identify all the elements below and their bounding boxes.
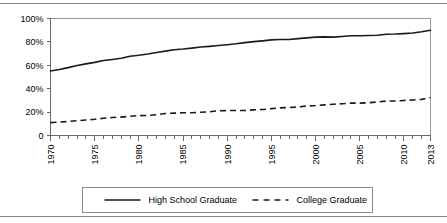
y-axis-tick-labels: 020%40%60%80%100% <box>20 14 43 141</box>
x-tick-label: 2013 <box>426 145 436 165</box>
legend-label: College Graduate <box>297 195 368 205</box>
figure-container: 020%40%60%80%100% 1970197519801985199019… <box>0 0 447 223</box>
x-tick-label: 2010 <box>399 145 409 165</box>
x-axis-ticks <box>51 136 431 141</box>
x-tick-label: 1985 <box>178 145 188 165</box>
x-tick-label: 1980 <box>134 145 144 165</box>
x-tick-label: 1975 <box>90 145 100 165</box>
y-tick-label: 100% <box>20 14 43 24</box>
x-tick-label: 1995 <box>267 145 277 165</box>
x-tick-label: 1970 <box>46 145 56 165</box>
y-tick-label: 0 <box>38 131 43 141</box>
y-tick-label: 20% <box>25 107 43 117</box>
y-tick-label: 40% <box>25 84 43 94</box>
chart-legend: High School GraduateCollege Graduate <box>83 188 373 213</box>
bottom-horizontal-rule <box>0 216 447 217</box>
y-axis-ticks <box>47 19 51 136</box>
x-tick-label: 1990 <box>223 145 233 165</box>
legend-label: High School Graduate <box>149 195 238 205</box>
x-tick-label: 2000 <box>311 145 321 165</box>
y-tick-label: 60% <box>25 61 43 71</box>
x-tick-label: 2005 <box>355 145 365 165</box>
series-line-1 <box>51 30 431 71</box>
series-line-2 <box>51 97 431 122</box>
data-series-group <box>51 30 431 122</box>
top-horizontal-rule <box>0 3 447 4</box>
y-tick-label: 80% <box>25 37 43 47</box>
x-axis-tick-labels: 1970197519801985199019952000200520102013 <box>46 145 436 165</box>
line-chart: 020%40%60%80%100% 1970197519801985199019… <box>0 8 447 213</box>
